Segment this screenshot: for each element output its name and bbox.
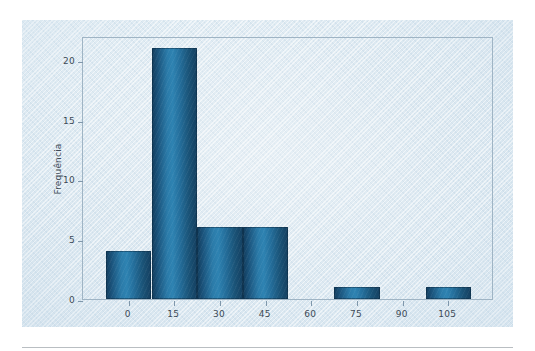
x-tick-mark: [174, 301, 175, 306]
histogram-bar: [426, 287, 472, 299]
x-tick-label: 15: [167, 309, 179, 319]
x-tick-label: 90: [396, 309, 408, 319]
y-tick-label: 5: [69, 235, 75, 245]
x-tick-mark: [448, 301, 449, 306]
x-tick-mark: [403, 301, 404, 306]
x-tick-label: 60: [304, 309, 316, 319]
y-tick-mark: [78, 301, 83, 302]
bottom-divider-rule: [22, 347, 513, 348]
y-tick-mark: [78, 122, 83, 123]
x-tick-mark: [357, 301, 358, 306]
x-tick-label: 75: [350, 309, 362, 319]
x-tick-mark: [311, 301, 312, 306]
y-tick-mark: [78, 62, 83, 63]
x-tick-label: 105: [438, 309, 456, 319]
x-tick-label: 45: [259, 309, 271, 319]
x-tick-label: 0: [125, 309, 131, 319]
x-tick-mark: [129, 301, 130, 306]
y-axis-title: Frequência: [53, 143, 63, 194]
histogram-bar: [197, 227, 243, 299]
y-tick-label: 15: [63, 116, 75, 126]
plot-area: [82, 37, 493, 300]
y-tick-label: 0: [69, 295, 75, 305]
histogram-bar: [106, 251, 152, 299]
y-tick-label: 10: [63, 175, 75, 185]
x-tick-mark: [220, 301, 221, 306]
y-tick-mark: [78, 241, 83, 242]
x-tick-mark: [266, 301, 267, 306]
histogram-bar: [152, 48, 198, 299]
x-tick-label: 30: [213, 309, 225, 319]
figure-panel: Frequência 05101520 0153045607590105: [22, 20, 513, 327]
histogram-bar: [334, 287, 380, 299]
histogram-bar: [243, 227, 289, 299]
y-tick-label: 20: [63, 56, 75, 66]
y-tick-mark: [78, 181, 83, 182]
